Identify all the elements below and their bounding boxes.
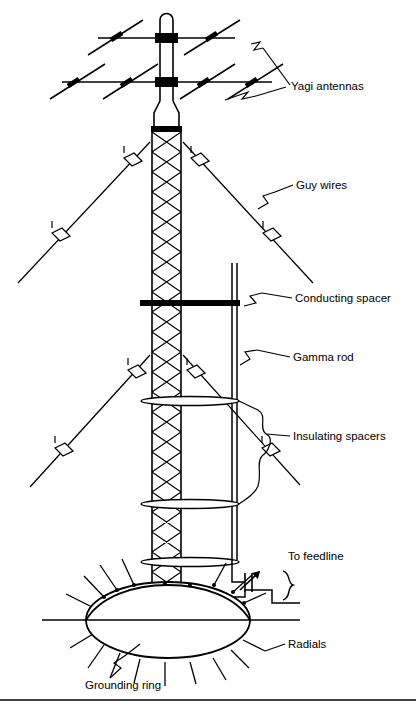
label-grounding-ring: Grounding ring: [85, 679, 161, 691]
label-insulating-spacers: Insulating spacers: [293, 430, 386, 442]
insulating-spacer-upper: [141, 397, 239, 406]
label-conducting-spacer: Conducting spacer: [295, 292, 391, 304]
label-to-feedline: To feedline: [288, 550, 344, 562]
label-radials: Radials: [288, 638, 327, 650]
label-guy-wires: Guy wires: [296, 179, 347, 191]
label-yagi-antennas: Yagi antennas: [291, 80, 364, 92]
label-gamma-rod: Gamma rod: [293, 351, 354, 363]
lower-yagi-mount-block: [155, 77, 178, 87]
tower-antenna-diagram: Yagi antennas Guy wires Conducting space…: [0, 0, 416, 706]
grounding-ring: [86, 582, 250, 658]
conducting-spacer-bar: [140, 300, 240, 306]
mast-tower-junction-plate: [151, 126, 182, 132]
upper-yagi-mount-block: [155, 33, 178, 43]
insulating-spacer-middle: [141, 500, 239, 509]
diagram-canvas: Yagi antennas Guy wires Conducting space…: [0, 0, 416, 706]
